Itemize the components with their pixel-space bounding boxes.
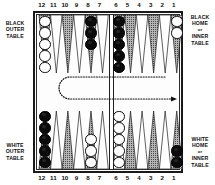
board-playing-surface <box>36 14 180 170</box>
point-number-6: 6 <box>110 1 122 8</box>
point-number-8: 8 <box>82 174 94 181</box>
point-number-10: 10 <box>59 174 71 181</box>
point-number-11: 11 <box>47 1 59 8</box>
point-number-3: 3 <box>145 174 157 181</box>
point-number-3: 3 <box>145 1 157 8</box>
arrow-path <box>59 77 171 99</box>
point-number-5: 5 <box>122 1 134 8</box>
point-number-8: 8 <box>82 1 94 8</box>
point-number-5: 5 <box>122 174 134 181</box>
point-number-10: 10 <box>59 1 71 8</box>
point-number-2: 2 <box>156 1 168 8</box>
point-number-7: 7 <box>94 174 106 181</box>
backgammon-board-figure: BLACK OUTER TABLE WHITE OUTER TABLE BLAC… <box>0 0 215 185</box>
point-number-1: 1 <box>168 1 180 8</box>
point-number-2: 2 <box>156 174 168 181</box>
label-line: TABLE <box>185 162 215 168</box>
point-number-12: 12 <box>36 1 48 8</box>
point-number-9: 9 <box>70 1 82 8</box>
label-line: TABLE <box>0 155 30 161</box>
point-numbers-bottom: 121110987654321 <box>33 174 183 184</box>
label-white-home-inner-table: WHITE HOME or INNER TABLE <box>185 136 215 168</box>
label-white-outer-table: WHITE OUTER TABLE <box>0 142 30 161</box>
point-number-11: 11 <box>47 174 59 181</box>
label-line: TABLE <box>0 33 30 39</box>
point-number-6: 6 <box>110 174 122 181</box>
point-number-7: 7 <box>94 1 106 8</box>
point-number-12: 12 <box>36 174 48 181</box>
point-numbers-top: 121110987654321 <box>33 1 183 11</box>
point-number-9: 9 <box>70 174 82 181</box>
label-line: TABLE <box>185 40 215 46</box>
arrowhead-icon <box>171 96 177 101</box>
point-number-4: 4 <box>133 174 145 181</box>
movement-direction-arrow <box>37 15 183 173</box>
point-number-4: 4 <box>133 1 145 8</box>
label-black-outer-table: BLACK OUTER TABLE <box>0 20 30 39</box>
point-number-1: 1 <box>168 174 180 181</box>
label-black-home-inner-table: BLACK HOME or INNER TABLE <box>185 14 215 46</box>
board-frame <box>33 11 183 173</box>
